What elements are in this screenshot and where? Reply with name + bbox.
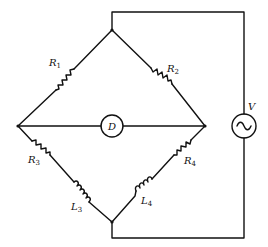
label-v: V bbox=[248, 101, 257, 112]
inductor-l4-icon bbox=[136, 177, 152, 191]
arm-bottom-left bbox=[18, 126, 112, 222]
label-r2: R2 bbox=[166, 63, 179, 76]
label-l4: L4 bbox=[140, 195, 153, 208]
arm-bottom-right bbox=[112, 126, 205, 222]
inductor-l3-icon bbox=[74, 181, 90, 202]
label-l3: L3 bbox=[70, 201, 82, 214]
node-right bbox=[203, 124, 206, 127]
node-bottom bbox=[110, 220, 113, 223]
label-d: D bbox=[107, 121, 116, 132]
resistor-r1-icon bbox=[56, 69, 74, 90]
node-left bbox=[16, 124, 19, 127]
node-top bbox=[110, 28, 113, 31]
label-r4: R4 bbox=[183, 155, 197, 168]
source-loop bbox=[112, 12, 256, 238]
bridge-circuit-diagram: R1 R2 R3 L3 R4 L4 D V bbox=[0, 0, 268, 247]
arm-top-right bbox=[112, 30, 205, 126]
resistor-r3-icon bbox=[32, 140, 50, 155]
arm-top-left bbox=[18, 30, 112, 126]
label-r1: R1 bbox=[48, 57, 61, 70]
label-r3: R3 bbox=[27, 154, 40, 167]
resistor-r4-icon bbox=[174, 140, 191, 155]
sine-wave-icon bbox=[237, 122, 251, 130]
